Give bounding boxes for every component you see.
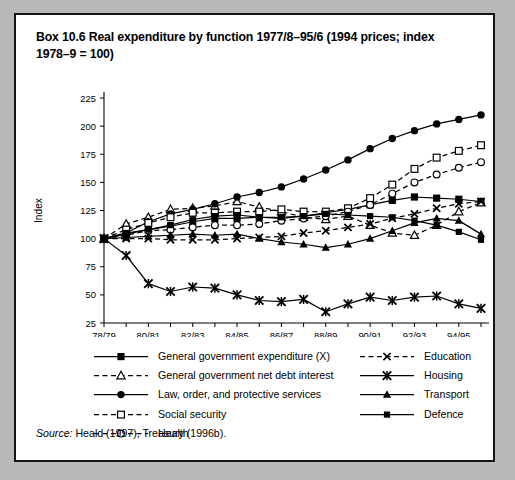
legend-symbol bbox=[356, 385, 418, 404]
data-point bbox=[477, 111, 484, 118]
series-4 bbox=[101, 159, 485, 242]
series-line bbox=[104, 239, 481, 312]
data-point bbox=[145, 227, 151, 233]
data-point bbox=[167, 222, 173, 228]
legend-symbol bbox=[356, 347, 418, 366]
legend-item-label: Education bbox=[424, 347, 471, 366]
y-tick-label: 125 bbox=[80, 205, 96, 216]
box-title: Box 10.6 Real expenditure by function 19… bbox=[36, 29, 466, 62]
source-citation: Heald (1997), Treasury (1996b). bbox=[73, 427, 227, 439]
legend-swatch bbox=[90, 347, 152, 366]
data-point bbox=[344, 299, 352, 308]
data-point bbox=[411, 127, 418, 134]
x-tick-label: 86/87 bbox=[270, 330, 293, 337]
data-point bbox=[256, 221, 263, 228]
data-point bbox=[234, 222, 241, 229]
data-point bbox=[367, 213, 373, 219]
data-point bbox=[300, 213, 306, 219]
data-point bbox=[434, 222, 440, 228]
legend-swatch bbox=[90, 405, 152, 424]
y-tick-label: 100 bbox=[80, 233, 96, 244]
series-line bbox=[104, 145, 481, 238]
data-point bbox=[367, 201, 374, 208]
data-point bbox=[256, 208, 263, 215]
legend-marker bbox=[384, 411, 390, 417]
data-point bbox=[233, 290, 241, 299]
legend-swatch bbox=[90, 366, 152, 385]
data-point bbox=[278, 183, 285, 190]
legend-item-label: General government expenditure (X) bbox=[158, 347, 330, 366]
legend-swatch bbox=[90, 385, 152, 404]
data-point bbox=[256, 189, 263, 196]
legend-swatch bbox=[356, 347, 418, 366]
data-point bbox=[433, 195, 440, 202]
data-point bbox=[212, 213, 218, 219]
y-tick-label: 25 bbox=[86, 318, 96, 329]
legend-item-label: Social security bbox=[158, 405, 226, 424]
x-tick-label: 78/79 bbox=[92, 330, 115, 337]
data-point bbox=[389, 135, 396, 142]
x-tick-label: 90/91 bbox=[358, 330, 381, 337]
data-point bbox=[455, 164, 462, 171]
data-point bbox=[478, 237, 484, 243]
data-point bbox=[366, 145, 373, 152]
data-point bbox=[145, 219, 152, 226]
data-point bbox=[190, 216, 196, 222]
x-tick-label: 84/85 bbox=[225, 330, 248, 337]
data-point bbox=[167, 214, 174, 221]
data-point bbox=[189, 209, 196, 216]
y-tick-label: 200 bbox=[80, 121, 96, 132]
data-point bbox=[477, 230, 485, 238]
y-tick-label: 175 bbox=[80, 149, 96, 160]
legend-item-label: Defence bbox=[424, 405, 463, 424]
data-point bbox=[478, 159, 485, 166]
x-tick-label: 82/83 bbox=[181, 330, 204, 337]
legend-symbol bbox=[90, 405, 152, 424]
y-tick-label: 150 bbox=[80, 177, 96, 188]
data-point bbox=[211, 222, 218, 229]
legend-marker bbox=[118, 411, 125, 418]
legend-symbol bbox=[356, 405, 418, 424]
data-point bbox=[455, 147, 462, 154]
legend-item-label: Transport bbox=[424, 385, 469, 404]
y-axis-title: Index bbox=[33, 198, 44, 223]
series-6 bbox=[100, 234, 485, 316]
expenditure-line-chart: 255075100125150175200225Index78/7980/818… bbox=[16, 79, 493, 337]
data-point bbox=[345, 212, 351, 218]
data-point bbox=[389, 197, 396, 204]
box-panel: Box 10.6 Real expenditure by function 19… bbox=[14, 13, 495, 462]
legend-marker bbox=[117, 353, 124, 360]
legend-swatch bbox=[356, 366, 418, 385]
legend-symbol bbox=[90, 366, 152, 385]
data-point bbox=[411, 193, 418, 200]
legend-swatch bbox=[356, 385, 418, 404]
data-point bbox=[211, 200, 218, 207]
data-point bbox=[478, 142, 485, 149]
data-point bbox=[389, 190, 396, 197]
y-tick-label: 50 bbox=[86, 289, 96, 300]
legend-item-label: General government net debt interest bbox=[158, 366, 334, 385]
data-point bbox=[344, 156, 351, 163]
data-point bbox=[278, 214, 284, 220]
data-point bbox=[410, 231, 418, 239]
data-point bbox=[455, 116, 462, 123]
data-point bbox=[278, 206, 285, 213]
data-point bbox=[233, 193, 240, 200]
data-point bbox=[411, 218, 417, 224]
data-point bbox=[433, 120, 440, 127]
data-point bbox=[234, 212, 240, 218]
chart-plot-area: 255075100125150175200225Index78/7980/818… bbox=[16, 79, 493, 337]
x-tick-label: 80/81 bbox=[137, 330, 160, 337]
data-point bbox=[433, 154, 440, 161]
data-point bbox=[411, 165, 418, 172]
x-tick-label: 94/95 bbox=[447, 330, 470, 337]
source-label: Source: bbox=[36, 427, 73, 439]
data-point bbox=[367, 195, 374, 202]
data-point bbox=[411, 179, 418, 186]
data-point bbox=[189, 224, 196, 231]
legend-swatch bbox=[356, 405, 418, 424]
legend-symbol bbox=[90, 385, 152, 404]
data-point bbox=[323, 211, 329, 217]
legend-marker bbox=[117, 391, 124, 398]
source-note: Source: Heald (1997), Treasury (1996b). bbox=[36, 427, 226, 439]
